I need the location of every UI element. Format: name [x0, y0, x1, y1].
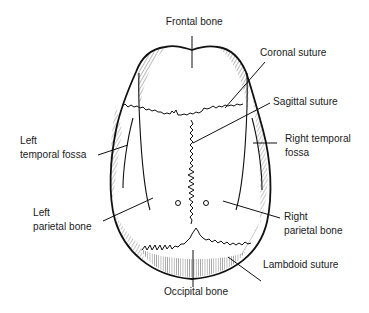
label-left-temporal-fossa-line1: Left — [20, 134, 37, 147]
label-lambdoid-suture: Lambdoid suture — [263, 258, 338, 271]
skull-diagram: Frontal bone Coronal suture Sagittal sut… — [0, 0, 369, 313]
label-occipital-bone: Occipital bone — [164, 285, 228, 298]
lambdoid-suture — [142, 228, 251, 250]
label-right-parietal-bone-line2: parietal bone — [284, 224, 343, 237]
sagittal-suture — [188, 120, 194, 224]
label-left-temporal-fossa-line2: temporal fossa — [20, 148, 86, 161]
label-sagittal-suture: Sagittal suture — [273, 95, 338, 108]
label-frontal-bone: Frontal bone — [166, 15, 223, 28]
label-coronal-suture: Coronal suture — [260, 46, 326, 59]
left-parietal-foramen — [176, 201, 181, 206]
label-right-temporal-fossa-line1: Right temporal — [285, 132, 351, 145]
label-right-parietal-bone-line1: Right — [284, 210, 308, 223]
label-right-temporal-fossa-line2: fossa — [285, 146, 309, 159]
label-left-parietal-bone-line1: Left — [33, 206, 50, 219]
right-parietal-foramen — [204, 201, 209, 206]
label-left-parietal-bone-line2: parietal bone — [33, 220, 92, 233]
